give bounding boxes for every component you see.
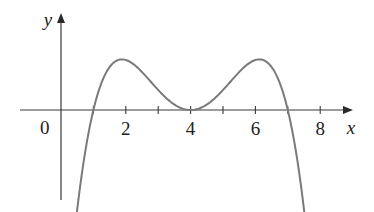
x-tick-label: 2: [121, 118, 131, 139]
x-axis-label: x: [346, 117, 356, 138]
y-axis-label: y: [42, 9, 53, 30]
x-tick-label: 8: [315, 118, 325, 139]
y-axis-arrow-icon: [57, 13, 65, 23]
x-tick-labels: 2468: [121, 118, 325, 139]
chart-plot: 2468 0 x y: [0, 0, 374, 212]
x-tick-label: 6: [251, 118, 261, 139]
origin-label: 0: [40, 117, 50, 138]
x-tick-label: 4: [186, 118, 196, 139]
x-axis-arrow-icon: [343, 106, 353, 114]
axes: [20, 13, 353, 200]
